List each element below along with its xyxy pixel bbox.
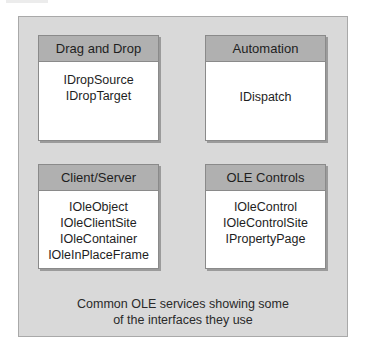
interface-item: IDropSource — [39, 72, 158, 88]
box-title: Client/Server — [39, 165, 158, 191]
box-automation: Automation IDispatch — [205, 35, 326, 141]
interface-list: IDropSource IDropTarget — [39, 62, 158, 104]
box-title: Drag and Drop — [39, 36, 158, 62]
interface-list: IOleObject IOleClientSite IOleContainer … — [39, 191, 158, 263]
interface-list: IDispatch — [206, 62, 325, 105]
box-title: Automation — [206, 36, 325, 62]
decorative-tab — [6, 0, 48, 3]
interface-item: IDropTarget — [39, 88, 158, 104]
interface-item: IOleControl — [206, 199, 325, 215]
interface-item: IOleClientSite — [39, 215, 158, 231]
box-client-server: Client/Server IOleObject IOleClientSite … — [38, 164, 159, 269]
interface-item: IDispatch — [206, 89, 325, 105]
interface-item: IPropertyPage — [206, 231, 325, 247]
caption-line: Common OLE services showing some — [18, 296, 348, 312]
interface-item: IOleContainer — [39, 231, 158, 247]
interface-item: IOleObject — [39, 199, 158, 215]
box-ole-controls: OLE Controls IOleControl IOleControlSite… — [205, 164, 326, 269]
interface-item: IOleInPlaceFrame — [39, 247, 158, 263]
box-drag-and-drop: Drag and Drop IDropSource IDropTarget — [38, 35, 159, 141]
interface-item: IOleControlSite — [206, 215, 325, 231]
caption-line: of the interfaces they use — [18, 312, 348, 328]
interface-list: IOleControl IOleControlSite IPropertyPag… — [206, 191, 325, 247]
box-title: OLE Controls — [206, 165, 325, 191]
diagram-caption: Common OLE services showing some of the … — [18, 296, 348, 328]
